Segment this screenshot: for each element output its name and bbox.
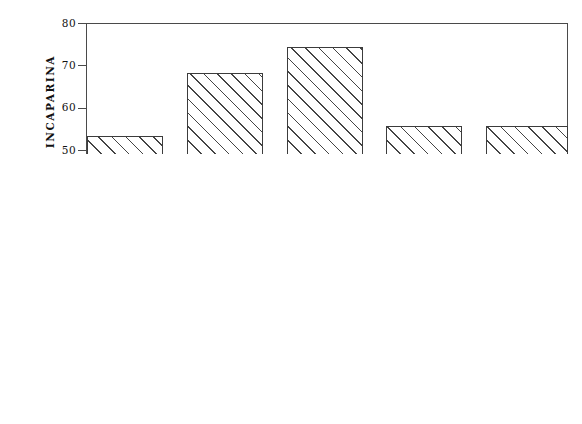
y-tick-label-80: 80: [16, 18, 76, 28]
plot-area: [86, 23, 568, 154]
bar-1-2: [187, 73, 263, 154]
y-tick-label-50: 50: [16, 145, 76, 154]
y-tick-mark-70: [78, 65, 86, 66]
bar-gt-6: [486, 126, 568, 154]
bar-5-6: [386, 126, 462, 155]
y-tick-mark-60: [78, 108, 86, 109]
bars-container: [87, 24, 567, 154]
bar-3-4: [287, 47, 363, 154]
y-tick-label-60: 60: [16, 102, 76, 112]
y-tick-mark-80: [78, 23, 86, 24]
y-axis-title: PERCENTAGE USING INCAPARINA: [40, 10, 60, 154]
y-tick-label-70: 70: [16, 60, 76, 70]
y-tick-mark-50: [78, 150, 86, 151]
bar-chart-figure: PERCENTAGE USING INCAPARINA 80 70 60 50 …: [0, 0, 582, 154]
bar-none: [87, 136, 163, 154]
